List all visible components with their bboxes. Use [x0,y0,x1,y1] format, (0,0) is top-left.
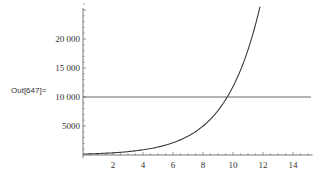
y-tick-label: 15 000 [55,63,80,73]
exponential-curve [83,7,260,154]
axes: 2468101214500010 00015 00020 000 [55,4,312,170]
x-tick-label: 6 [171,160,176,170]
x-tick-label: 2 [111,160,116,170]
x-tick-label: 14 [289,160,299,170]
y-tick-label: 10 000 [55,92,80,102]
x-tick-label: 4 [141,160,146,170]
series [83,7,311,154]
x-tick-label: 8 [201,160,206,170]
x-tick-label: 12 [259,160,268,170]
x-tick-label: 10 [229,160,239,170]
y-tick-label: 5000 [62,121,81,131]
y-tick-label: 20 000 [55,34,80,44]
plot: 2468101214500010 00015 00020 000 [0,0,323,180]
